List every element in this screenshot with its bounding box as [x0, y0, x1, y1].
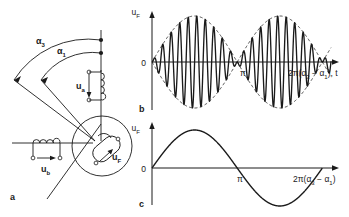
panel-b-pi-tick: π: [240, 68, 246, 78]
terminal-dot-inner: [99, 51, 103, 55]
rotor-terminal-upper: [116, 137, 120, 141]
figure-root: α3 α1 ua: [0, 0, 349, 217]
rotor-terminal-lower: [94, 161, 98, 165]
coil-ub-terminal-left: [31, 156, 35, 160]
terminal-dot-outer: [99, 38, 103, 42]
figure-svg: α3 α1 ua: [0, 0, 349, 217]
panel-b-origin-tick: 0: [141, 58, 146, 68]
panel-label-c: c: [139, 199, 144, 209]
coil-ub-terminal-right: [58, 156, 62, 160]
panel-label-b: b: [139, 104, 145, 114]
panel-c-origin-tick: 0: [141, 164, 146, 174]
